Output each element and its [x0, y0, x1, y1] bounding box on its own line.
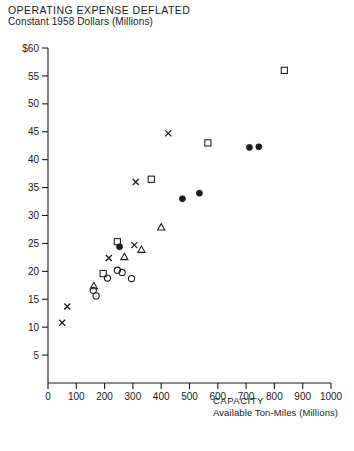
- data-point-circle-open: [128, 275, 134, 281]
- y-axis-tick-label: 30: [28, 210, 40, 221]
- y-axis-tick-label: 45: [28, 126, 40, 137]
- x-axis-tick-label: 100: [68, 391, 85, 402]
- y-axis-tick-label: 20: [28, 266, 40, 277]
- data-point-square-open: [148, 176, 154, 182]
- x-axis-sublabel: Available Ton-Miles (Millions): [213, 407, 338, 419]
- data-point-square-open: [205, 140, 211, 146]
- x-axis-tick-label: 300: [125, 391, 142, 402]
- x-axis-caption: CAPACITY Available Ton-Miles (Millions): [213, 395, 338, 419]
- data-point-x: [131, 242, 137, 248]
- y-axis-tick-label: 15: [28, 294, 40, 305]
- data-point-circle-open: [93, 293, 99, 299]
- data-point-triangle-open: [121, 253, 128, 259]
- y-axis-tick-label: 25: [28, 238, 40, 249]
- y-axis-tick-label: $60: [22, 43, 39, 54]
- y-axis-tick-label: 5: [33, 350, 39, 361]
- data-point-circle-open: [104, 275, 110, 281]
- x-axis-label: CAPACITY: [213, 395, 338, 407]
- data-point-x: [64, 304, 70, 310]
- data-point-triangle-open: [138, 246, 145, 252]
- data-point-square-open: [281, 67, 287, 73]
- x-axis-tick-label: 500: [181, 391, 198, 402]
- data-point-x: [165, 130, 171, 136]
- x-axis-tick-label: 0: [45, 391, 51, 402]
- data-point-x: [106, 255, 112, 261]
- data-point-x: [133, 179, 139, 185]
- data-point-circle-filled: [117, 244, 123, 250]
- y-axis-tick-label: 40: [28, 154, 40, 165]
- data-point-circle-filled: [246, 144, 252, 150]
- data-point-triangle-open: [158, 224, 165, 230]
- data-point-circle-filled: [196, 190, 202, 196]
- plot-area: 510152025303540455055$600100200300400500…: [0, 0, 354, 451]
- scatter-chart-figure: OPERATING EXPENSE DEFLATED Constant 1958…: [0, 0, 354, 451]
- y-axis-tick-label: 55: [28, 71, 40, 82]
- y-axis-tick-label: 35: [28, 182, 40, 193]
- x-axis-tick-label: 200: [96, 391, 113, 402]
- data-point-circle-filled: [179, 196, 185, 202]
- y-axis-tick-label: 10: [28, 322, 40, 333]
- axis-spines: [48, 48, 331, 383]
- data-point-circle-filled: [256, 144, 262, 150]
- data-point-x: [59, 320, 65, 326]
- y-axis-tick-label: 50: [28, 98, 40, 109]
- x-axis-tick-label: 400: [153, 391, 170, 402]
